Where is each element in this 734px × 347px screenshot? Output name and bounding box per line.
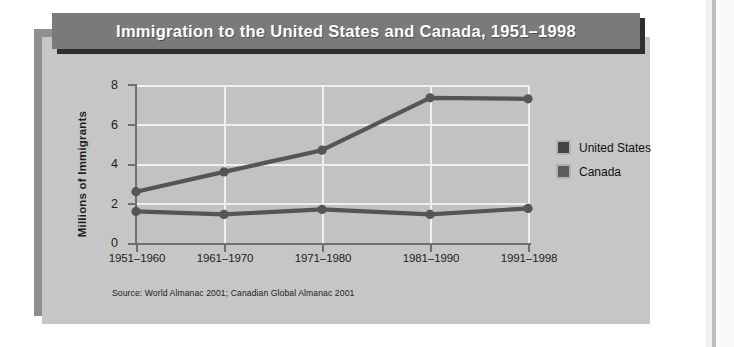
y-tick-label-8: 8 xyxy=(98,78,118,92)
gridline-v-1991-1998 xyxy=(528,85,530,243)
legend-item-united-states: United States xyxy=(556,140,686,155)
y-tick-0 xyxy=(128,243,136,245)
chart-page: Immigration to the United States and Can… xyxy=(0,0,734,347)
x-tick-1981-1990 xyxy=(430,245,432,252)
x-tick-1951-1960 xyxy=(136,245,138,252)
y-tick-label-6: 6 xyxy=(98,118,118,132)
gridline-h-8 xyxy=(136,85,530,87)
legend: United States Canada xyxy=(556,140,686,188)
x-tick-label-1961-1970: 1961–1970 xyxy=(182,252,268,264)
legend-label-united-states: United States xyxy=(579,141,651,155)
gridline-v-1981-1990 xyxy=(430,85,432,243)
legend-label-canada: Canada xyxy=(579,165,621,179)
y-tick-6 xyxy=(128,124,136,126)
y-axis-title: Millions of Immigrants xyxy=(76,79,88,269)
x-tick-label-1991-1998: 1991–1998 xyxy=(486,252,572,264)
y-tick-label-2: 2 xyxy=(98,197,118,211)
gridline-h-6 xyxy=(136,124,530,126)
y-tick-label-4: 4 xyxy=(98,157,118,171)
y-tick-8 xyxy=(128,84,136,86)
y-tick-label-0: 0 xyxy=(98,236,118,250)
gridline-h-2 xyxy=(136,203,530,205)
gridline-v-1961-1970 xyxy=(224,85,226,243)
x-tick-1991-1998 xyxy=(528,245,530,252)
x-tick-label-1951-1960: 1951–1960 xyxy=(94,252,180,264)
y-tick-2 xyxy=(128,203,136,205)
y-tick-4 xyxy=(128,164,136,166)
legend-item-canada: Canada xyxy=(556,164,686,179)
gridline-h-4 xyxy=(136,164,530,166)
chart-area: Millions of Immigrants 8 6 4 2 0 xyxy=(0,0,734,347)
x-tick-1961-1970 xyxy=(224,245,226,252)
x-axis-line xyxy=(135,243,531,245)
x-tick-label-1971-1980: 1971–1980 xyxy=(280,252,366,264)
source-note: Source: World Almanac 2001; Canadian Glo… xyxy=(112,288,354,298)
x-tick-label-1981-1990: 1981–1990 xyxy=(388,252,474,264)
plot-area xyxy=(136,85,530,243)
legend-swatch-united-states xyxy=(556,140,571,155)
gridline-v-1971-1980 xyxy=(322,85,324,243)
legend-swatch-canada xyxy=(556,164,571,179)
x-tick-1971-1980 xyxy=(322,245,324,252)
